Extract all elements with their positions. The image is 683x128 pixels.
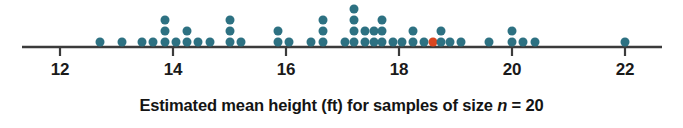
x-tick-label: 18 — [390, 60, 408, 80]
data-dot — [409, 38, 418, 47]
x-axis — [22, 47, 662, 56]
data-dot — [118, 38, 127, 47]
data-dot — [273, 38, 282, 47]
data-dot — [160, 16, 169, 25]
data-dot — [445, 38, 454, 47]
data-dot — [621, 38, 630, 47]
data-dot — [457, 38, 466, 47]
data-dot — [171, 38, 180, 47]
data-dot — [225, 16, 234, 25]
axis-svg — [0, 0, 683, 95]
x-tick-label: 16 — [277, 60, 295, 80]
x-axis-caption: Estimated mean height (ft) for samples o… — [0, 96, 683, 115]
data-dot — [530, 38, 539, 47]
data-dot — [183, 38, 192, 47]
data-dot — [318, 38, 327, 47]
data-dot — [318, 16, 327, 25]
data-dot — [194, 38, 203, 47]
data-dot — [160, 27, 169, 36]
data-dot — [284, 38, 293, 47]
data-dot — [137, 38, 146, 47]
plot-area: 121416182022 — [0, 0, 683, 95]
caption-italic-n: n — [497, 96, 507, 114]
data-dot — [225, 38, 234, 47]
data-dot — [225, 27, 234, 36]
x-tick-label: 22 — [616, 60, 634, 80]
data-dot — [149, 38, 158, 47]
data-dot — [485, 38, 494, 47]
data-dot — [378, 16, 387, 25]
data-dot — [183, 27, 192, 36]
data-dot — [318, 27, 327, 36]
data-dot — [349, 27, 358, 36]
caption-before: Estimated mean height (ft) for samples o… — [139, 96, 497, 114]
x-tick-label: 20 — [503, 60, 521, 80]
data-dot — [437, 27, 446, 36]
data-dot — [95, 38, 104, 47]
data-dot — [160, 38, 169, 47]
data-dot — [378, 27, 387, 36]
x-tick-label: 14 — [164, 60, 182, 80]
data-dot — [349, 38, 358, 47]
data-dot — [519, 38, 528, 47]
dotplot-figure: 121416182022 Estimated mean height (ft) … — [0, 0, 683, 128]
data-dot — [236, 38, 245, 47]
x-tick-label: 12 — [51, 60, 69, 80]
caption-after: = 20 — [507, 96, 543, 114]
data-dot — [378, 38, 387, 47]
data-dot — [508, 27, 517, 36]
data-dot — [205, 38, 214, 47]
data-dot — [273, 27, 282, 36]
data-dot — [397, 38, 406, 47]
data-dot — [307, 38, 316, 47]
data-dot — [349, 16, 358, 25]
data-dot — [349, 5, 358, 14]
data-dot — [409, 27, 418, 36]
data-dot — [508, 38, 517, 47]
